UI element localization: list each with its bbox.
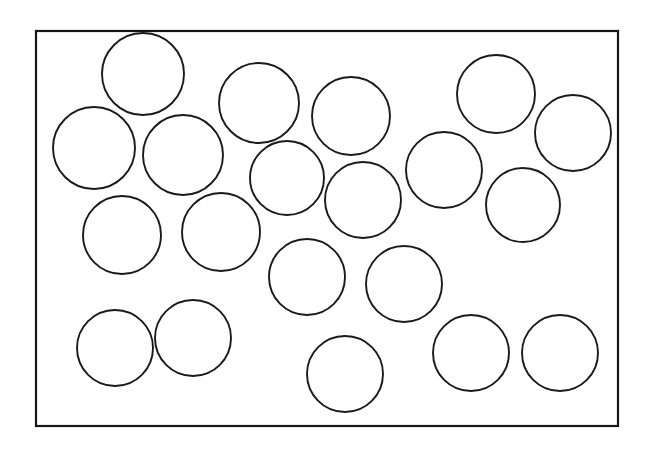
circle-12 <box>83 196 161 274</box>
circle-14 <box>269 239 345 315</box>
figure-canvas <box>0 0 650 451</box>
circle-17 <box>155 300 231 376</box>
circle-6 <box>457 55 535 133</box>
circle-2 <box>53 107 135 189</box>
circle-3 <box>143 115 223 195</box>
circle-15 <box>366 246 442 322</box>
circle-8 <box>406 132 482 208</box>
circle-16 <box>77 310 153 386</box>
circle-1 <box>102 33 184 115</box>
circle-7 <box>535 95 611 171</box>
circle-4 <box>219 63 299 143</box>
circle-packing-diagram <box>0 0 650 451</box>
circle-19 <box>433 315 509 391</box>
circle-10 <box>250 141 324 215</box>
circles-group <box>53 33 611 412</box>
circle-20 <box>522 315 598 391</box>
circle-18 <box>307 336 383 412</box>
circle-13 <box>182 193 260 271</box>
circle-11 <box>325 162 401 238</box>
circle-5 <box>312 77 390 155</box>
circle-9 <box>486 168 560 242</box>
